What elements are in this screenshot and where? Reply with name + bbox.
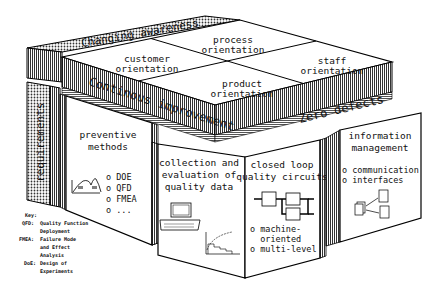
- key-qfd-abbr: QFD:: [22, 220, 34, 226]
- abbreviation-key: Key: QFD: Quality Function Deployment FM…: [19, 212, 88, 275]
- preventive-item-doe: o DOE: [106, 172, 132, 182]
- closed-loop-title-2: quality circuits: [236, 171, 328, 182]
- closed-loop-item-1b: oriented: [250, 234, 301, 244]
- pillar-closed-loop: closed loop quality circuits o machine- …: [236, 138, 328, 278]
- process-orientation-line2: orientation: [202, 44, 265, 55]
- preventive-item-qfd: o QFD: [106, 183, 132, 193]
- key-doe-line2: Experiments: [40, 268, 73, 275]
- pillar-quality-data: collection and evaluation of quality dat…: [152, 142, 245, 278]
- preventive-methods-title-2: methods: [88, 141, 128, 152]
- closed-loop-item-1: o machine-: [250, 224, 301, 234]
- key-heading: Key:: [25, 212, 37, 219]
- quality-data-title-3: quality data: [165, 181, 234, 192]
- quality-data-title-2: evaluation of: [162, 169, 236, 180]
- key-qfd-line1: Quality Function: [40, 220, 88, 227]
- product-orientation-line2: orientation: [211, 88, 274, 99]
- key-qfd-line2: Deployment: [40, 228, 70, 235]
- key-fmea-line2: and Effect: [40, 244, 70, 250]
- key-fmea-abbr: FMEA:: [19, 236, 34, 242]
- closed-loop-title-1: closed loop: [251, 159, 314, 170]
- closed-loop-item-2: o multi-level: [250, 244, 317, 254]
- pillar-information-management: information management o communication o…: [326, 113, 421, 246]
- quality-house-diagram: Changing awareness requirements process …: [0, 0, 445, 296]
- key-doe-abbr: DoE:: [24, 260, 36, 266]
- customer-orientation-line2: orientation: [116, 63, 179, 74]
- preventive-item-fmea: o FMEA: [106, 194, 137, 204]
- key-doe-line1: Design of: [40, 260, 67, 267]
- info-mgmt-item-interfaces: o interfaces: [342, 175, 403, 185]
- staff-orientation-line2: orientation: [301, 65, 364, 76]
- requirements-label: requirements: [34, 103, 47, 182]
- preventive-methods-title-1: preventive: [79, 129, 136, 140]
- preventive-item-more: o ...: [106, 205, 132, 215]
- info-mgmt-title-1: information: [349, 130, 412, 141]
- quality-data-title-1: collection and: [159, 157, 239, 168]
- info-mgmt-title-2: management: [351, 142, 408, 153]
- key-fmea-line3: Analysis: [40, 252, 64, 259]
- key-fmea-line1: Failure Mode: [40, 236, 76, 242]
- requirements-pillar: requirements: [27, 82, 60, 207]
- info-mgmt-item-communication: o communication: [342, 165, 419, 175]
